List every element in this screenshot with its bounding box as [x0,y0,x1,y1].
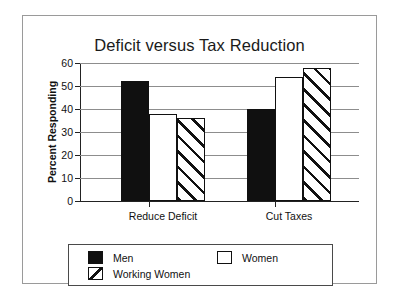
bar-men-cut-taxes [247,109,275,201]
plot-area: 60 50 40 30 20 10 0 Reduce Deficit Cut T… [80,63,359,201]
y-tick-60 [75,63,80,64]
gridline-0 [80,201,359,202]
y-tick-label-0: 0 [67,195,73,207]
legend-swatch-men-icon [88,251,103,264]
legend-entry-men: Men [88,251,133,264]
y-axis-title: Percent Responding [45,63,59,201]
cat-label-reduce-deficit: Reduce Deficit [129,210,197,222]
bar-working-women-reduce-deficit [177,118,205,201]
y-tick-label-60: 60 [61,57,73,69]
legend-entry-women: Women [217,251,278,264]
y-tick-label-20: 20 [61,149,73,161]
y-tick-0 [75,201,80,202]
gridline-60 [80,63,359,64]
cat-label-cut-taxes: Cut Taxes [266,210,313,222]
y-tick-label-10: 10 [61,172,73,184]
bar-men-reduce-deficit [121,81,149,201]
y-axis-title-label: Percent Responding [46,81,58,183]
chart-legend: Men Women Working Women [68,244,333,286]
bar-women-reduce-deficit [149,114,177,201]
y-tick-label-40: 40 [61,103,73,115]
bar-working-women-cut-taxes [303,68,331,201]
y-tick-label-30: 30 [61,126,73,138]
legend-entry-working-women: Working Women [88,267,190,280]
y-tick-30 [75,132,80,133]
legend-label-working-women: Working Women [113,268,190,280]
legend-swatch-working-women-icon [88,267,103,280]
chart-title: Deficit versus Tax Reduction [23,36,376,55]
y-tick-10 [75,178,80,179]
cat-tick-cut-taxes [275,201,276,207]
bar-women-cut-taxes [275,77,303,201]
y-tick-50 [75,86,80,87]
chart-frame: Deficit versus Tax Reduction Percent Res… [22,15,377,284]
y-tick-40 [75,109,80,110]
y-tick-20 [75,155,80,156]
legend-label-women: Women [242,252,278,264]
legend-label-men: Men [113,252,133,264]
y-tick-label-50: 50 [61,80,73,92]
cat-tick-reduce-deficit [149,201,150,207]
legend-swatch-women-icon [217,251,232,264]
